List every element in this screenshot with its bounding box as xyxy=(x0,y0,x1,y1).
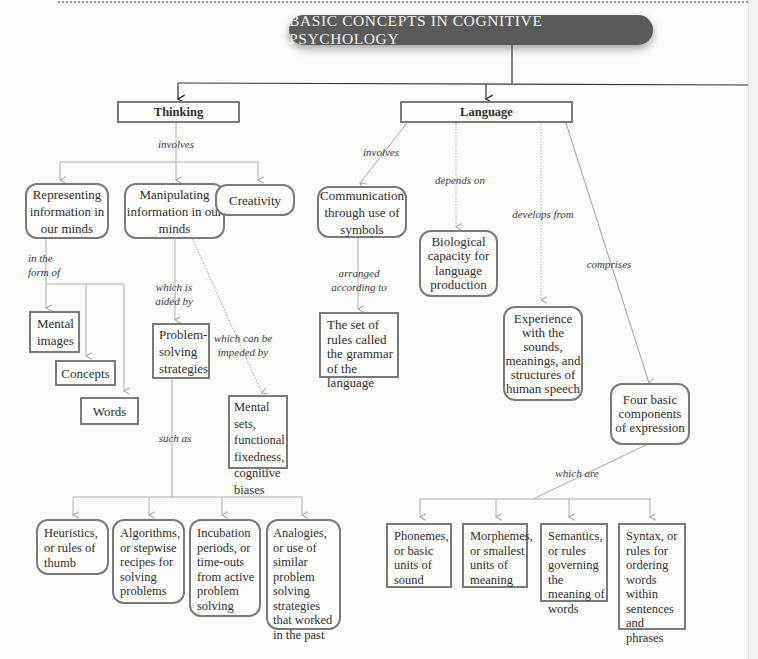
link-in-the-form-of: in the form of xyxy=(28,251,68,279)
node-heuristics-label: Heuristics, or rules of thumb xyxy=(44,526,107,571)
top-dotted-rule xyxy=(58,1,748,3)
node-mental-images: Mental images xyxy=(29,311,80,353)
node-thinking-label: Thinking xyxy=(154,104,203,121)
node-communication-label: Communication through use of symbols xyxy=(319,187,405,238)
link-thinking-involves: involves xyxy=(150,137,202,151)
node-semantics-label: Semantics, or rules governing the meanin… xyxy=(548,529,606,616)
node-communication: Communication through use of symbols xyxy=(317,186,407,238)
node-phonemes-label: Phonemes, or basic units of sound xyxy=(394,529,450,587)
node-problem-solving-label: Problem-solving strategies xyxy=(159,326,208,377)
link-develops-from: develops from xyxy=(512,207,574,221)
node-heuristics: Heuristics, or rules of thumb xyxy=(36,519,109,575)
link-depends-on: depends on xyxy=(430,173,490,187)
node-words-label: Words xyxy=(93,403,127,420)
diagram-title-text: BASIC CONCEPTS IN COGNITIVE PSYCHOLOGY xyxy=(289,12,653,48)
node-problem-solving-strategies: Problem-solving strategies xyxy=(152,323,210,379)
link-language-involves: involves xyxy=(358,145,404,159)
diagram-title: BASIC CONCEPTS IN COGNITIVE PSYCHOLOGY xyxy=(289,15,653,45)
node-thinking: Thinking xyxy=(117,101,240,123)
node-mental-images-label: Mental images xyxy=(37,315,78,349)
link-which-can-be-impeded-by: which can be impeded by xyxy=(213,331,273,359)
node-analogies: Analogies, or use of similar problem sol… xyxy=(266,519,341,630)
link-comprises: comprises xyxy=(584,257,634,271)
node-incubation-label: Incubation periods, or time-outs from ac… xyxy=(197,526,259,613)
node-experience: Experience with the sounds, meanings, an… xyxy=(503,306,583,401)
link-such-as: such as xyxy=(155,431,195,445)
node-morphemes: Morphemes, or smallest units of meaning xyxy=(462,523,528,588)
node-biological-label: Biological capacity for language product… xyxy=(421,235,496,293)
node-impediments-label: Mental sets, functional fixedness, cogni… xyxy=(234,399,286,498)
node-creativity: Creativity xyxy=(215,184,295,216)
node-words: Words xyxy=(80,397,139,425)
link-which-are: which are xyxy=(555,466,599,480)
node-concepts: Concepts xyxy=(55,360,116,386)
page-edge xyxy=(748,0,758,659)
node-semantics: Semantics, or rules governing the meanin… xyxy=(540,523,608,602)
node-phonemes: Phonemes, or basic units of sound xyxy=(386,523,452,588)
node-language: Language xyxy=(400,101,573,123)
node-manipulating-label: Manipulating information in our minds xyxy=(126,186,223,237)
node-syntax-label: Syntax, or rules for ordering words with… xyxy=(626,529,684,645)
link-arranged-according-to: arranged according to xyxy=(330,266,388,294)
node-syntax: Syntax, or rules for ordering words with… xyxy=(618,523,686,630)
node-language-label: Language xyxy=(460,104,513,121)
node-experience-label: Experience with the sounds, meanings, an… xyxy=(505,312,581,396)
node-algorithms: Algorithms, or stepwise recipes for solv… xyxy=(112,519,185,604)
node-creativity-label: Creativity xyxy=(229,192,281,209)
node-algorithms-label: Algorithms, or stepwise recipes for solv… xyxy=(120,526,183,599)
node-analogies-label: Analogies, or use of similar problem sol… xyxy=(273,526,339,642)
node-four-components: Four basic components of expression xyxy=(610,383,690,445)
node-concepts-label: Concepts xyxy=(61,365,109,382)
node-grammar-label: The set of rules called the grammar of t… xyxy=(327,318,397,391)
node-morphemes-label: Morphemes, or smallest units of meaning xyxy=(470,529,526,587)
node-manipulating-information: Manipulating information in our minds xyxy=(124,183,225,239)
link-which-is-aided-by: which is aided by xyxy=(150,280,198,308)
node-incubation: Incubation periods, or time-outs from ac… xyxy=(189,519,261,617)
node-representing-label: Representing information in our minds xyxy=(27,186,107,237)
node-four-components-label: Four basic components of expression xyxy=(612,393,688,435)
node-representing-information: Representing information in our minds xyxy=(25,183,109,239)
node-impediments: Mental sets, functional fixedness, cogni… xyxy=(228,395,288,469)
node-grammar: The set of rules called the grammar of t… xyxy=(319,312,399,378)
node-biological-capacity: Biological capacity for language product… xyxy=(419,230,498,297)
